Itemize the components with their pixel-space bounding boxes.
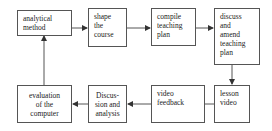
node-evaluation-computer: evaluation of the computer (17, 85, 72, 123)
node-text: compile (157, 12, 190, 21)
node-text: video (220, 98, 244, 107)
node-text: teaching (157, 21, 190, 30)
node-text: lesson (220, 89, 244, 98)
node-text: discuss (220, 12, 254, 21)
node-discussion-analysis: Discus- sion and analysis (88, 85, 127, 123)
node-text: analysis (91, 109, 124, 118)
node-text: plan (157, 30, 190, 39)
node-text: analytical (23, 14, 66, 23)
node-text: the (94, 21, 121, 30)
node-text: feedback (157, 98, 199, 107)
node-text: method (23, 23, 66, 32)
node-text: plan (220, 48, 254, 57)
node-text: sion and (91, 100, 124, 109)
node-compile-teaching-plan: compile teaching plan (151, 8, 196, 46)
node-text: evaluation (20, 91, 69, 100)
node-text: teaching (220, 39, 254, 48)
node-discuss-amend-plan: discuss and amend teaching plan (214, 8, 260, 65)
node-video-feedback: video feedback (151, 85, 205, 123)
node-text: course (94, 30, 121, 39)
node-text: video (157, 89, 199, 98)
node-lesson-video: lesson video (214, 85, 250, 123)
node-text: of the (20, 100, 69, 109)
node-text: shape (94, 12, 121, 21)
node-analytical-method: analytical method (17, 10, 72, 36)
node-text: amend (220, 30, 254, 39)
node-shape-the-course: shape the course (88, 8, 127, 47)
node-text: computer (20, 109, 69, 118)
node-text: Discus- (91, 91, 124, 100)
node-text: and (220, 21, 254, 30)
